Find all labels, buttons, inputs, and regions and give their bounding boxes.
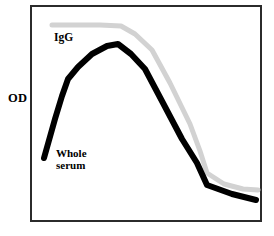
series-label-igg: IgG — [54, 31, 73, 43]
figure-container: OD IgG Whole serum — [0, 0, 274, 236]
series-label-whole-serum: Whole serum — [56, 148, 87, 172]
chart-canvas — [0, 0, 274, 236]
y-axis-label: OD — [8, 92, 27, 105]
series-line-whole-serum — [44, 44, 256, 200]
series-group — [44, 25, 258, 200]
